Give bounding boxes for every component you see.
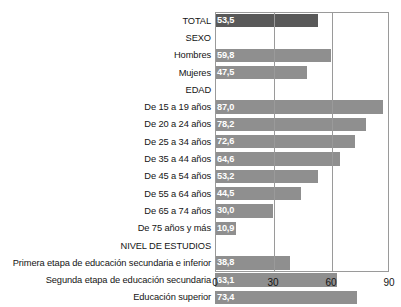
bar-category-label: NIVEL DE ESTUDIOS [0,241,215,251]
bar-track: 87,0 [215,98,389,115]
chart-bar-row: De 55 a 64 años44,5 [0,185,401,202]
bar-category-label: De 75 años y más [0,223,215,233]
bar-track [215,29,389,46]
chart-bar-row: De 75 años y más10,9 [0,220,401,237]
x-tick-label: 60 [325,277,336,288]
bar-category-label: De 45 a 54 años [0,171,215,181]
bar-category-label: Mujeres [0,68,215,78]
bar-track: 78,2 [215,116,389,133]
bar-value-label: 38,8 [217,257,234,268]
bar [215,100,383,113]
bar-value-label: 78,2 [217,119,234,130]
x-tick-label: 30 [267,277,278,288]
chart-bar-row: De 20 a 24 años78,2 [0,116,401,133]
bar-category-label: De 15 a 19 años [0,102,215,112]
chart-bar-row: Mujeres47,5 [0,64,401,81]
chart-bar-row: De 65 a 74 años30,0 [0,202,401,219]
chart-bar-row: De 15 a 19 años87,0 [0,98,401,115]
bar-value-label: 44,5 [217,188,234,199]
bar-category-label: De 20 a 24 años [0,119,215,129]
chart-section-header-row: EDAD [0,81,401,98]
bar-category-label: SEXO [0,33,215,43]
bar-value-label: 59,8 [217,50,234,61]
bar-track: 59,8 [215,47,389,64]
bar-category-label: Segunda etapa de educación secundaria [0,275,215,285]
bar-category-label: De 55 a 64 años [0,189,215,199]
bar-category-label: TOTAL [0,16,215,26]
chart-bar-row: TOTAL53,5 [0,12,401,29]
bar-category-label: De 65 a 74 años [0,206,215,216]
bar-track: 10,9 [215,220,389,237]
bar-track: 53,2 [215,168,389,185]
chart-bar-row: De 25 a 34 años72,6 [0,133,401,150]
chart-section-header-row: NIVEL DE ESTUDIOS [0,237,401,254]
bar-track: 47,5 [215,64,389,81]
bar-category-label: EDAD [0,85,215,95]
bar [215,135,355,148]
horizontal-bar-chart: TOTAL53,5SEXOHombres59,8Mujeres47,5EDADD… [0,0,401,307]
x-tick-label: 0 [212,277,218,288]
bar-track [215,81,389,98]
bar-value-label: 47,5 [217,67,234,78]
bar-value-label: 87,0 [217,102,234,113]
bar-track [215,237,389,254]
chart-bar-row: Primera etapa de educación secundaria e … [0,254,401,271]
bar-track: 30,0 [215,202,389,219]
chart-bar-row: De 35 a 44 años64,6 [0,150,401,167]
bar-category-label: Educación superior [0,292,215,302]
bar-value-label: 72,6 [217,136,234,147]
chart-bar-row: Hombres59,8 [0,47,401,64]
x-tick-label: 90 [383,277,394,288]
bar-value-label: 64,6 [217,154,234,165]
bar-value-label: 53,2 [217,171,234,182]
bar [215,118,366,131]
bar-track: 38,8 [215,254,389,271]
chart-bar-row: De 45 a 54 años53,2 [0,168,401,185]
bar-category-label: Primera etapa de educación secundaria e … [0,258,215,268]
bar-track: 53,5 [215,12,389,29]
bar-value-label: 10,9 [217,223,234,234]
bar-value-label: 53,5 [217,15,234,26]
chart-section-header-row: SEXO [0,29,401,46]
bar-track: 64,6 [215,150,389,167]
bar-category-label: De 25 a 34 años [0,137,215,147]
bar-track: 72,6 [215,133,389,150]
bar-category-label: De 35 a 44 años [0,154,215,164]
bar-track: 44,5 [215,185,389,202]
chart-rows: TOTAL53,5SEXOHombres59,8Mujeres47,5EDADD… [0,12,401,306]
bar-value-label: 30,0 [217,205,234,216]
x-axis: 0306090 [215,274,389,294]
bar-category-label: Hombres [0,50,215,60]
